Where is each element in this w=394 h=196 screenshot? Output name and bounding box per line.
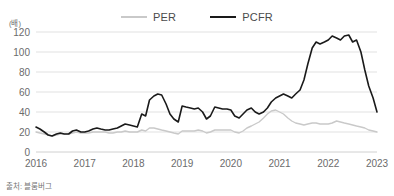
x-axis-tick-labels: 20162017201820192020202120222023 — [25, 158, 389, 169]
y-axis-tick-label: 0 — [24, 147, 30, 158]
y-axis-tick-label: 100 — [13, 47, 30, 58]
x-axis-tick-label: 2017 — [74, 158, 97, 169]
x-axis-tick-label: 2022 — [317, 158, 340, 169]
x-axis-tick-label: 2020 — [220, 158, 243, 169]
x-axis-tick-label: 2019 — [171, 158, 194, 169]
chart-plot-area: 020406080100120 201620172018201920202021… — [0, 0, 394, 196]
y-axis-tick-label: 80 — [19, 67, 31, 78]
x-axis-tick-label: 2021 — [268, 158, 291, 169]
x-axis-tick-label: 2016 — [25, 158, 48, 169]
source-note: 출처: 블룸버그 — [6, 180, 52, 191]
chart-container: PER PCFR (배) 020406080100120 20162017201… — [0, 0, 394, 196]
y-axis-tick-label: 20 — [19, 127, 31, 138]
y-axis-tick-label: 120 — [13, 27, 30, 38]
series-line-pcfr — [36, 35, 377, 136]
gridlines-group — [36, 32, 377, 152]
y-axis-tick-label: 60 — [19, 87, 31, 98]
y-axis-tick-labels: 020406080100120 — [13, 27, 30, 158]
x-axis-tick-label: 2023 — [366, 158, 389, 169]
y-axis-tick-label: 40 — [19, 107, 31, 118]
x-axis-tick-label: 2018 — [122, 158, 145, 169]
